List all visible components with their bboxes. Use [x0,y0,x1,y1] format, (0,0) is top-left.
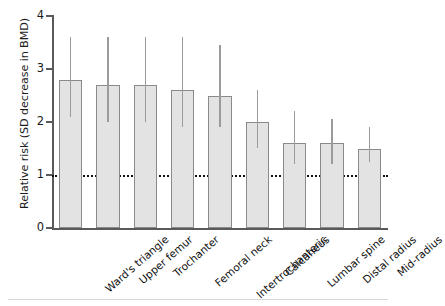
y-tick-label-4: 4 [24,8,44,22]
y-tick-0 [46,227,53,229]
y-tick-4 [46,15,53,17]
footer-divider [8,299,388,300]
y-tick-label-3: 3 [24,61,44,75]
error-bar-lumbar-spine [294,111,295,164]
error-bar-upper-femur [107,37,108,122]
error-bar-distal-radius [331,119,332,164]
y-tick-3 [46,68,53,70]
x-tick-label-calcaneus: Calcaneus [283,233,332,278]
x-axis-line [52,228,388,230]
error-bar-ward-s-triangle [70,37,71,117]
error-bar-intertrochanteric [219,45,220,127]
y-tick-2 [46,121,53,123]
error-bar-femoral-neck [182,37,183,127]
error-bar-mid-radius [369,127,370,161]
y-tick-label-1: 1 [24,167,44,181]
y-tick-label-0: 0 [24,220,44,234]
error-bar-calcaneus [257,90,258,148]
error-bar-trochanter [145,37,146,122]
y-tick-label-2: 2 [24,114,44,128]
